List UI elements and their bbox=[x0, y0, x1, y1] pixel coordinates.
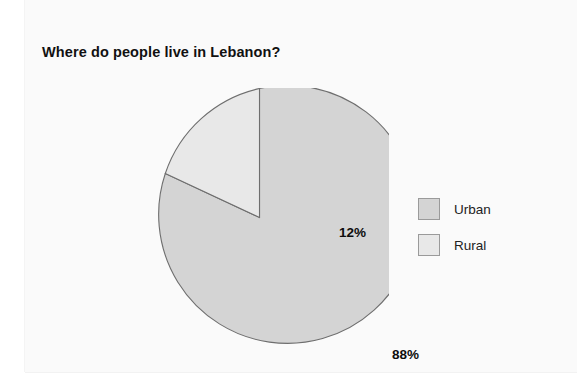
legend-item-urban[interactable]: Urban bbox=[418, 196, 558, 222]
legend-swatch-rural bbox=[418, 234, 440, 256]
legend-label-rural: Rural bbox=[454, 238, 486, 253]
pie-chart: 12% 88% bbox=[130, 88, 389, 347]
chart-legend: Urban Rural bbox=[418, 196, 558, 268]
pie-label-urban: 88% bbox=[392, 347, 419, 362]
legend-item-rural[interactable]: Rural bbox=[418, 232, 558, 258]
pie-label-rural: 12% bbox=[339, 225, 366, 240]
legend-label-urban: Urban bbox=[454, 202, 491, 217]
chart-title: Where do people live in Lebanon? bbox=[42, 44, 280, 60]
panel-bottom-edge bbox=[25, 372, 577, 373]
chart-canvas: Where do people live in Lebanon? 12% 88%… bbox=[0, 0, 577, 380]
pie-svg bbox=[130, 88, 389, 347]
legend-swatch-urban bbox=[418, 198, 440, 220]
